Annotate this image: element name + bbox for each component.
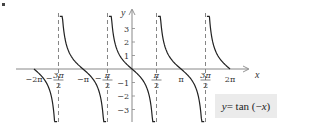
svg-text:2: 2 xyxy=(203,81,208,90)
svg-text:2: 2 xyxy=(56,81,61,90)
svg-text:π: π xyxy=(104,71,111,80)
svg-text:3π: 3π xyxy=(53,71,64,80)
y-tick-label: −1 xyxy=(117,79,129,88)
y-tick-label: 3 xyxy=(124,25,129,34)
x-tick-labels: −2π−3π2−π−π2π2π3π22π xyxy=(25,71,235,90)
equation-body: = tan (− xyxy=(227,100,262,112)
y-tick-label: −2 xyxy=(117,92,129,101)
y-tick-label: −3 xyxy=(117,106,129,115)
svg-text:−: − xyxy=(95,74,102,83)
equation-close: ) xyxy=(267,100,271,112)
y-tick-label: 1 xyxy=(124,52,129,61)
x-tick-label: π xyxy=(178,75,183,84)
svg-text:2: 2 xyxy=(105,81,110,90)
x-axis-label: x xyxy=(254,69,260,80)
svg-text:π: π xyxy=(153,71,160,80)
equation-label: y = tan (−x) xyxy=(215,94,277,118)
svg-text:−: − xyxy=(46,74,53,83)
y-axis-label: y xyxy=(120,7,126,18)
svg-text:2: 2 xyxy=(154,81,159,90)
x-tick-label: 2π xyxy=(225,75,235,84)
x-tick-label: 3π2 xyxy=(200,71,211,90)
y-tick-label: 2 xyxy=(124,38,129,47)
svg-text:3π: 3π xyxy=(200,71,211,80)
x-tick-label: −π xyxy=(77,75,89,84)
x-tick-label: −2π xyxy=(25,75,42,84)
x-tick-label: π2 xyxy=(152,71,162,90)
